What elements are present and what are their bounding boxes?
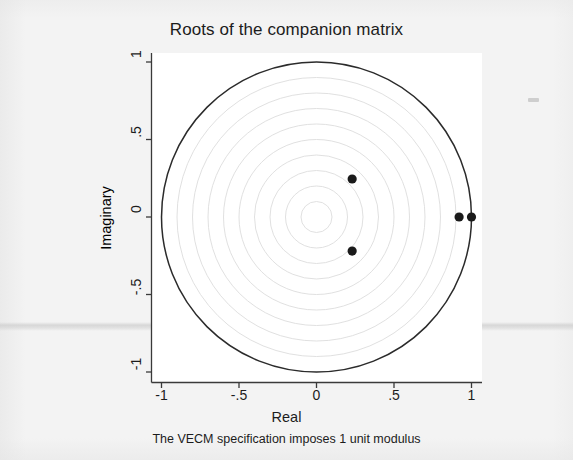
- y-tick-label: .5: [128, 126, 144, 138]
- chart-note: The VECM specification imposes 1 unit mo…: [0, 432, 573, 446]
- y-tick-label: 0: [128, 205, 144, 213]
- grid-circle-7: [193, 93, 441, 341]
- x-tick-label: .5: [388, 387, 400, 403]
- grid-circle-8: [177, 78, 456, 357]
- grid-circle-1: [286, 186, 348, 248]
- x-tick-label: 0: [313, 387, 321, 403]
- grid-circles-layer: [177, 78, 456, 357]
- x-tick-label: -1: [155, 387, 167, 403]
- grid-circle-5: [224, 124, 410, 310]
- y-tick-label: -.5: [128, 278, 144, 294]
- axis-lines-layer: [146, 53, 482, 388]
- x-axis-title: Real: [0, 409, 573, 425]
- data-point: [455, 212, 464, 221]
- data-point: [467, 212, 476, 221]
- y-axis-title: Imaginary: [98, 186, 114, 250]
- data-points-layer: [348, 174, 477, 255]
- chart-title: Roots of the companion matrix: [0, 20, 573, 40]
- chart-page: Roots of the companion matrix Real Imagi…: [0, 0, 573, 460]
- roots-scatter-plot: [0, 0, 573, 460]
- x-tick-label: 1: [468, 387, 476, 403]
- data-point: [348, 174, 357, 183]
- data-point: [348, 247, 357, 256]
- grid-circle-3: [255, 155, 379, 279]
- y-tick-label: -1: [128, 358, 144, 370]
- grid-circle-4: [239, 140, 394, 295]
- grid-circle-0: [301, 202, 332, 233]
- x-tick-label: -.5: [231, 387, 247, 403]
- grid-circle-6: [208, 109, 425, 326]
- y-tick-label: 1: [128, 50, 144, 58]
